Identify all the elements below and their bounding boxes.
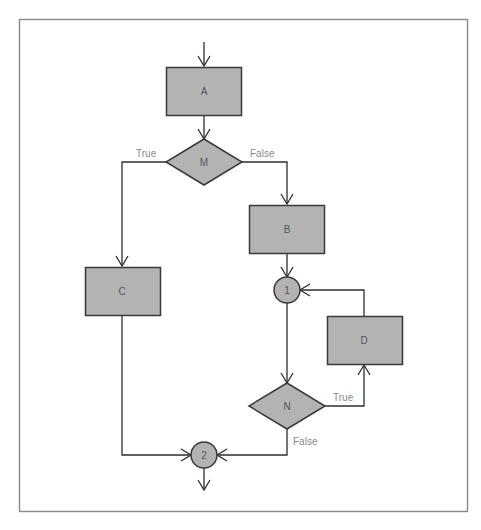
decision-m: M [166,139,242,185]
edge-m-to-b [242,162,293,204]
node-c-label: C [118,286,125,297]
connector-2-label: 2 [201,450,207,461]
edge-j1-to-n [281,303,293,383]
edge-c-to-j2 [122,315,191,461]
edge-label-m-false: False [250,148,275,159]
edge-j2-to-end [198,468,210,490]
edge-a-to-m [198,115,210,139]
node-a: A [167,68,242,116]
connector-1-label: 1 [284,285,290,296]
node-b: B [250,206,325,254]
edge-start-to-a [198,42,210,66]
decision-m-label: M [200,157,208,168]
node-a-label: A [201,86,208,97]
edge-label-n-true: True [333,392,354,403]
edge-b-to-j1 [281,253,293,277]
connector-2: 2 [191,442,217,468]
edge-label-n-false: False [293,436,318,447]
edge-label-m-true: True [136,148,157,159]
node-c: C [86,268,161,316]
node-d: D [328,317,403,365]
connector-1: 1 [274,277,300,303]
flowchart-diagram: True False True False [0,0,481,530]
decision-n-label: N [283,401,290,412]
node-d-label: D [360,335,367,346]
node-b-label: B [284,224,291,235]
diagram-frame [20,20,468,512]
edge-m-to-c [116,162,166,266]
edge-n-to-j2 [217,429,287,461]
decision-n: N [249,383,325,429]
edge-d-to-j1 [300,284,364,316]
